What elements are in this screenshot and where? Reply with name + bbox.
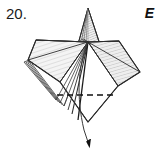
origami-step-figure: 20. E — [0, 0, 162, 157]
top-spike-flap — [78, 8, 100, 44]
arrow-tip-segment — [84, 130, 88, 142]
origami-diagram-svg — [0, 0, 162, 157]
top-spike-outline — [78, 8, 100, 44]
